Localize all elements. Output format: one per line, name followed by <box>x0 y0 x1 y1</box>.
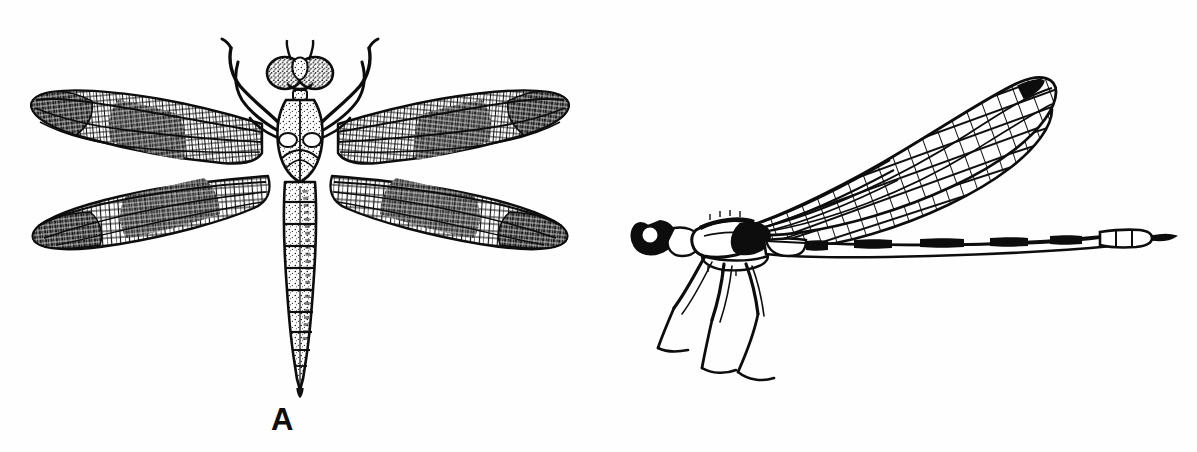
damselfly-cerci <box>1152 235 1176 241</box>
dragonfly-left-hindwing <box>33 176 270 249</box>
damselfly-legs <box>658 258 774 380</box>
panel-label-a: A <box>271 404 293 435</box>
panel-a-dragonfly: A <box>0 0 600 452</box>
damselfly-thorax <box>692 210 770 276</box>
dragonfly-head <box>267 40 333 100</box>
dragonfly-right-forewing <box>338 90 569 163</box>
dragonfly-abdomen <box>284 182 316 397</box>
panel-b-damselfly: B <box>600 0 1197 452</box>
dragonfly-right-hindwing <box>331 176 568 249</box>
damselfly-illustration <box>600 0 1197 452</box>
dragonfly-thorax <box>277 100 322 182</box>
figure-root: A <box>0 0 1197 452</box>
damselfly-eye <box>641 226 659 244</box>
damselfly-head <box>632 221 701 256</box>
dragonfly-left-forewing <box>31 90 262 163</box>
dragonfly-illustration <box>0 0 600 452</box>
damselfly-terminal-segment <box>1100 230 1152 248</box>
